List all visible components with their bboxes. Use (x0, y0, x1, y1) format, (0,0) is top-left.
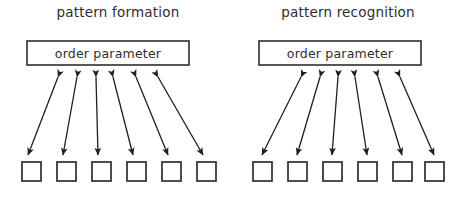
unit-square (358, 162, 377, 181)
unit-square (288, 162, 307, 181)
arrow-group-left (28, 77, 203, 155)
unit-square (22, 162, 41, 181)
unit-square (253, 162, 272, 181)
bidirectional-arrow (400, 77, 434, 155)
unit-square (92, 162, 111, 181)
bidirectional-arrow (262, 77, 301, 155)
bidirectional-arrow (113, 77, 133, 155)
unit-square (57, 162, 76, 181)
bidirectional-arrow (136, 77, 168, 155)
diagram-canvas: pattern formation order parameter (0, 0, 459, 209)
unit-square (127, 162, 146, 181)
unit-square (197, 162, 216, 181)
unit-square (425, 162, 444, 181)
panel-title-pattern-formation: pattern formation (57, 4, 180, 20)
panel-pattern-recognition: pattern recognition order parameter (253, 4, 444, 181)
arrow-group-right (262, 77, 434, 155)
bidirectional-arrow (332, 77, 338, 155)
unit-row-left (22, 162, 216, 181)
order-parameter-label-left: order parameter (55, 46, 162, 61)
bidirectional-arrow (355, 77, 367, 155)
bidirectional-arrow (297, 77, 320, 155)
unit-row-right (253, 162, 444, 181)
unit-square (393, 162, 412, 181)
bidirectional-arrow (158, 77, 203, 155)
panel-title-pattern-recognition: pattern recognition (281, 4, 415, 20)
unit-square (323, 162, 342, 181)
bidirectional-arrow (28, 77, 58, 155)
panel-pattern-formation: pattern formation order parameter (22, 4, 216, 181)
diagram-svg: pattern formation order parameter (0, 0, 459, 209)
bidirectional-arrow (378, 77, 402, 155)
unit-square (162, 162, 181, 181)
bidirectional-arrow (96, 77, 98, 155)
bidirectional-arrow (63, 77, 77, 155)
order-parameter-label-right: order parameter (287, 46, 394, 61)
